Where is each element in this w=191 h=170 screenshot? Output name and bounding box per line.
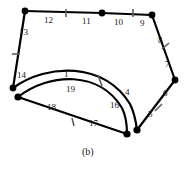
edge-label-19: 19 — [66, 85, 75, 94]
edge-label-17: 17 — [89, 119, 98, 128]
edge-right-lower-segment — [137, 80, 175, 130]
polygon-diagram — [0, 0, 191, 170]
edge-label-13: 13 — [19, 28, 28, 37]
vertex-bottom-mid — [123, 130, 130, 137]
edge-top-left-segment — [25, 11, 102, 13]
edge-label-18: 18 — [47, 103, 56, 112]
edge-label-4: 4 — [125, 88, 130, 97]
edge-tick-marks — [12, 9, 169, 126]
edge-top-right-segment — [102, 13, 152, 15]
vertex-right — [172, 77, 179, 84]
vertex-left-upper — [10, 85, 17, 92]
edge-label-11: 11 — [82, 17, 91, 26]
edge-label-10: 10 — [114, 18, 123, 27]
vertex-bottom-right — [133, 126, 140, 133]
edge-label-14: 14 — [17, 71, 26, 80]
edge-label-7: 7 — [165, 60, 170, 69]
edge-label-5: 5 — [148, 110, 153, 119]
vertex-top-mid — [99, 10, 106, 17]
edge-label-16: 16 — [110, 101, 119, 110]
edge-label-6: 6 — [163, 89, 168, 98]
figure-caption: (b) — [82, 146, 94, 157]
edge-label-12: 12 — [44, 16, 53, 25]
vertex-left-lower — [14, 93, 21, 100]
vertex-top-left — [22, 8, 29, 15]
edge-label-9: 9 — [140, 19, 145, 28]
tick-edge-18-17-icon — [72, 118, 74, 126]
edge-label-1: 1 — [64, 70, 69, 79]
vertex-top-right — [149, 12, 156, 19]
edge-label-8: 8 — [158, 36, 163, 45]
